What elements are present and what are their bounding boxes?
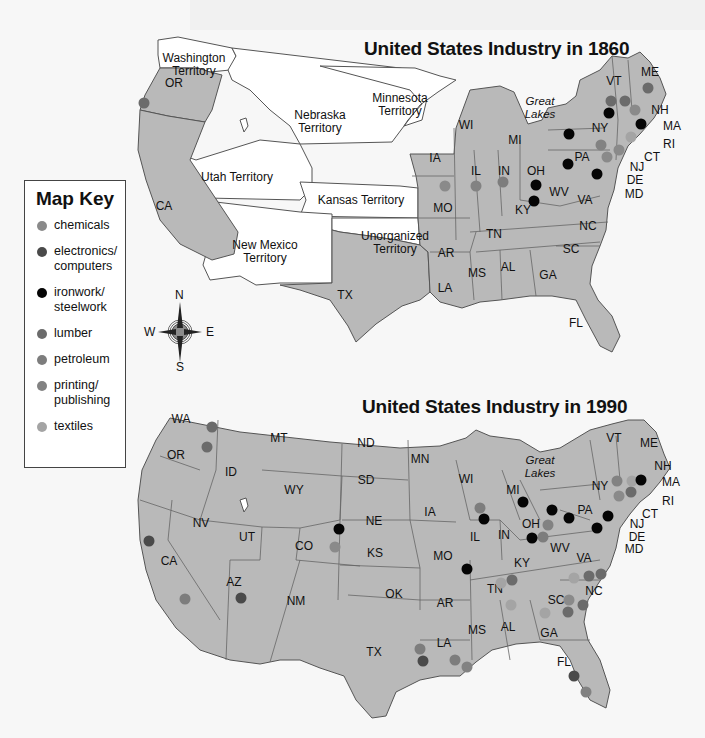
label-il-1860: IL [471, 165, 481, 178]
dot-ironwork [527, 533, 538, 544]
label-ct-1990: CT [642, 508, 658, 521]
label-or-1990: OR [167, 449, 185, 462]
label-ar-1860: AR [438, 247, 455, 260]
map-key: Map Key chemicals electronics/computers … [24, 180, 126, 468]
map-key-title: Map Key [25, 188, 125, 210]
label-me-1990: ME [640, 437, 658, 450]
label-nd-1990: ND [357, 437, 374, 450]
label-new-mexico-territory: New MexicoTerritory [232, 239, 297, 265]
petroleum-dot-icon [37, 355, 47, 365]
label-wi-1860: WI [459, 119, 474, 132]
dot-petroleum [475, 503, 486, 514]
label-vt-1860: VT [606, 75, 621, 88]
map-1990-title: United States Industry in 1990 [362, 396, 627, 418]
dot-lumber [578, 600, 589, 611]
dot-ironwork [592, 169, 603, 180]
label-mo-1990: MO [433, 550, 452, 563]
dot-chemicals [630, 105, 641, 116]
label-in-1990: IN [498, 529, 510, 542]
dot-electronics [236, 593, 247, 604]
electronics-dot-icon [37, 247, 47, 257]
compass-rose: N S W E [150, 290, 210, 370]
label-ca-1860: CA [156, 200, 173, 213]
label-me-1860: ME [641, 66, 659, 79]
dot-chemicals [614, 491, 625, 502]
dot-printing [596, 140, 607, 151]
dot-ironwork [563, 159, 574, 170]
dot-petroleum [538, 532, 549, 543]
legend-item-lumber: lumber [25, 326, 125, 341]
label-or-1860: OR [165, 77, 183, 90]
dot-lumber [606, 96, 617, 107]
label-va-1860: VA [577, 194, 592, 207]
dot-chemicals [440, 181, 451, 192]
dot-lumber [643, 83, 654, 94]
dot-ironwork [592, 523, 603, 534]
label-great-lakes-1990: GreatLakes [525, 454, 556, 480]
legend-item-chemicals: chemicals [25, 218, 125, 233]
printing-dot-icon [37, 381, 47, 391]
label-ks-1990: KS [367, 547, 383, 560]
dot-lumber [507, 575, 518, 586]
label-mi-1990: MI [506, 484, 519, 497]
label-utah-territory: Utah Territory [201, 171, 273, 184]
label-vt-1990: VT [606, 432, 621, 445]
dot-lumber [584, 571, 595, 582]
label-nc-1990: NC [585, 585, 602, 598]
label-ar-1990: AR [437, 597, 454, 610]
dot-ironwork [518, 497, 529, 508]
label-md-1990: MD [625, 543, 644, 556]
dot-ironwork [604, 108, 615, 119]
dot-electronics [569, 671, 580, 682]
label-kansas-territory: Kansas Territory [318, 194, 404, 207]
label-in-1860: IN [498, 165, 510, 178]
dot-petroleum [498, 177, 509, 188]
dot-ironwork [564, 129, 575, 140]
dot-ironwork [529, 196, 540, 207]
ironwork-dot-icon [37, 288, 47, 298]
dot-ironwork [462, 564, 473, 575]
label-washington-territory: WashingtonTerritory [163, 52, 226, 78]
label-wv-1860: WV [549, 186, 568, 199]
label-ok-1990: OK [385, 588, 402, 601]
dot-ironwork [603, 511, 614, 522]
label-mo-1860: MO [433, 202, 452, 215]
label-id-1990: ID [225, 466, 237, 479]
label-ma-1860: MA [663, 120, 681, 133]
legend-item-electronics: electronics/computers [25, 244, 125, 274]
label-sc-1990: SC [548, 594, 565, 607]
label-nc-1860: NC [579, 220, 596, 233]
dot-ironwork [636, 119, 647, 130]
label-ct-1860: CT [644, 151, 660, 164]
label-az-1990: AZ [226, 576, 241, 589]
label-nh-1860: NH [651, 104, 668, 117]
legend-item-petroleum: petroleum [25, 352, 125, 367]
label-md-1860: MD [625, 188, 644, 201]
dot-chemicals [330, 542, 341, 553]
label-nh-1990: NH [654, 460, 671, 473]
label-ms-1990: MS [468, 624, 486, 637]
dot-ironwork [564, 513, 575, 524]
label-sd-1990: SD [358, 474, 375, 487]
dot-printing [462, 662, 473, 673]
dot-textiles [506, 600, 517, 611]
dot-petroleum [180, 594, 191, 605]
chemicals-dot-icon [37, 221, 47, 231]
dot-petroleum [415, 644, 426, 655]
dot-ironwork [636, 475, 647, 486]
label-sc-1860: SC [563, 243, 580, 256]
label-oh-1990: OH [522, 518, 540, 531]
dot-ironwork [531, 180, 542, 191]
lumber-dot-icon [37, 329, 47, 339]
dot-printing [543, 520, 554, 531]
label-great-lakes-1860: GreatLakes [525, 95, 556, 121]
dot-lumber [202, 442, 213, 453]
label-va-1990: VA [576, 552, 591, 565]
label-ky-1860: KY [515, 204, 531, 217]
label-wi-1990: WI [459, 473, 474, 486]
label-tn-1860: TN [486, 228, 502, 241]
compass-e: E [206, 325, 214, 339]
label-al-1990: AL [501, 621, 516, 634]
label-pa-1990: PA [577, 504, 592, 517]
label-tx-1990: TX [366, 646, 381, 659]
